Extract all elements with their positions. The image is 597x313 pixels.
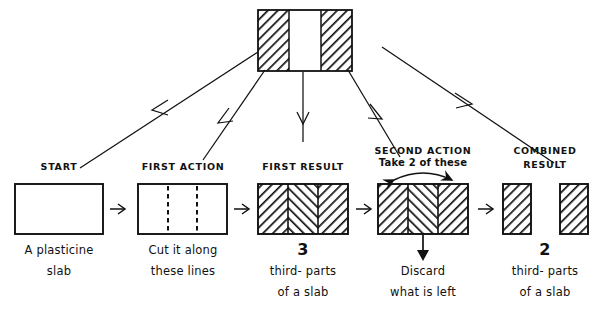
arrow-to-second-action	[348, 70, 400, 157]
flow-arrow-4	[478, 204, 493, 214]
flow-arrow-2	[234, 204, 249, 214]
caption-start-line1: A plasticine	[24, 243, 93, 257]
caption-first-result-line2: of a slab	[278, 285, 329, 299]
shape-start	[15, 184, 103, 234]
column-title-second-action: SECOND ACTION	[375, 145, 472, 156]
top-slab-shape	[258, 10, 352, 71]
column-title-start: START	[41, 161, 78, 172]
diagram-canvas: START FIRST ACTION FIRST RESULT SECOND A…	[0, 0, 597, 313]
caption-combined-result-line2: of a slab	[520, 285, 571, 299]
shape-combined-result	[503, 184, 588, 234]
caption-first-action-line2: these lines	[151, 264, 216, 278]
column-title-combined-result-line2: RESULT	[523, 159, 567, 170]
fanout-arrows	[80, 47, 554, 168]
flow-arrow-1	[110, 204, 125, 214]
caption-first-result-line1: third- parts	[270, 264, 337, 278]
caption-combined-result-number: 2	[539, 240, 550, 259]
shape-first-action	[138, 184, 227, 234]
caption-first-result-number: 3	[297, 240, 308, 259]
column-title-first-action: FIRST ACTION	[142, 161, 225, 172]
flow-arrow-3	[356, 204, 371, 214]
caption-second-action-line2: what is left	[390, 285, 456, 299]
caption-start-line2: slab	[47, 264, 71, 278]
discard-arrow	[417, 234, 429, 261]
caption-combined-result-line1: third- parts	[512, 264, 579, 278]
column-subtitle-second-action: Take 2 of these	[379, 157, 467, 168]
arrow-to-start	[80, 52, 258, 168]
shape-first-result	[258, 184, 348, 234]
caption-second-action-line1: Discard	[401, 264, 446, 278]
shape-second-action	[378, 184, 468, 234]
caption-first-action-line1: Cut it along	[148, 243, 217, 257]
arrow-to-first-action	[203, 70, 265, 160]
column-title-combined-result-line1: COMBINED	[513, 145, 576, 156]
take-two-span-arrow	[394, 173, 452, 180]
column-title-first-result: FIRST RESULT	[262, 161, 344, 172]
